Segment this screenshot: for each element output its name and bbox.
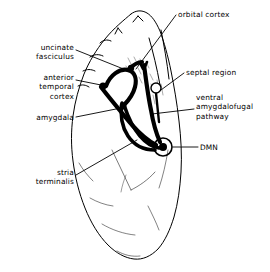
leader-amygdala	[76, 108, 121, 117]
label-anterior-temporal-cortex-line2: temporal	[39, 82, 74, 91]
label-anterior-temporal-cortex: anterior temporal cortex	[39, 73, 74, 101]
sulcus-temporal-lower-2	[131, 172, 155, 190]
label-dmn-line1: DMN	[200, 143, 218, 152]
label-ventral-amygdalofugal-pathway-line1: ventral	[196, 93, 253, 102]
pathways-group	[101, 62, 160, 150]
label-anterior-temporal-cortex-line1: anterior	[39, 73, 74, 82]
label-orbital-cortex-line1: orbital cortex	[178, 10, 230, 19]
sulcus-temporal-lower-3	[121, 175, 126, 192]
label-orbital-cortex: orbital cortex	[178, 10, 230, 19]
diagram-canvas	[0, 0, 270, 272]
label-anterior-temporal-cortex-line3: cortex	[39, 92, 74, 101]
label-amygdala: amygdala	[36, 113, 74, 122]
apex-notch-2	[115, 28, 122, 34]
label-septal-region: septal region	[186, 68, 236, 77]
dmn-marker	[159, 143, 167, 151]
fold-right-2	[149, 38, 160, 85]
sulcus-frontal-3	[83, 70, 95, 72]
label-septal-region-line1: septal region	[186, 68, 236, 77]
leader-stria-terminalis	[76, 140, 137, 175]
septal-connector	[156, 93, 159, 122]
label-uncinate-fasciculus-line2: fasciculus	[36, 52, 74, 61]
sulcus-temporal-lower-8	[148, 206, 159, 230]
apex-notch	[133, 16, 143, 22]
septal-region-marker	[151, 83, 161, 93]
label-ventral-amygdalofugal-pathway-line2: amygdalofugal	[196, 102, 253, 111]
label-stria-terminalis-line1: stria	[36, 168, 74, 177]
label-amygdala-line1: amygdala	[36, 113, 74, 122]
leader-septal-region	[161, 73, 184, 90]
sulcus-temporal-lower-1	[112, 150, 131, 190]
sulcus-temporal-lower-4	[90, 198, 113, 206]
label-uncinate-fasciculus-line1: uncinate	[36, 43, 74, 52]
uncinate-origin-marker	[128, 65, 134, 71]
leader-lines-group	[76, 15, 198, 175]
label-ventral-amygdalofugal-pathway-line3: pathway	[196, 112, 253, 121]
leader-uncinate-fasciculus	[76, 50, 131, 72]
label-dmn: DMN	[200, 143, 218, 152]
label-stria-terminalis: stria terminalis	[36, 168, 74, 187]
brain-pathway-figure: orbital cortex uncinate fasciculus anter…	[0, 0, 270, 272]
label-ventral-amygdalofugal-pathway: ventral amygdalofugal pathway	[196, 93, 253, 121]
label-stria-terminalis-line2: terminalis	[36, 177, 74, 186]
label-uncinate-fasciculus: uncinate fasciculus	[36, 43, 74, 62]
inferior-margin-detail	[117, 251, 140, 256]
sulcus-temporal-lower-5	[102, 224, 135, 235]
fold-right-1	[161, 30, 169, 79]
